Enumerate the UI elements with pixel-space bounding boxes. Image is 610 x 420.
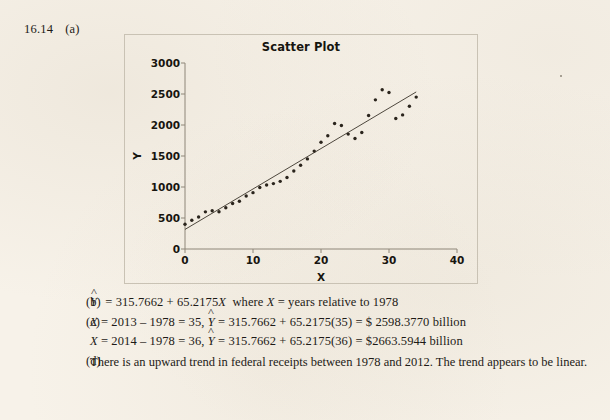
- data-point: [265, 183, 268, 186]
- part-c2-calc: = 2014 – 1978 = 36,: [101, 334, 205, 348]
- data-point: [292, 169, 295, 172]
- data-point: [367, 114, 370, 117]
- y-tick-label-1000: 1000: [151, 181, 180, 193]
- x-tick-label-40: 40: [450, 254, 465, 266]
- data-point: [340, 124, 343, 127]
- data-point: [306, 157, 309, 160]
- data-point: [211, 209, 214, 212]
- y-tick-label-2500: 2500: [151, 88, 180, 100]
- data-point: [204, 210, 207, 213]
- x-tick-label-30: 30: [382, 254, 397, 266]
- problem-heading: 16.14(a): [24, 22, 80, 37]
- plot-area: 050010001500200025003000 010203040 X Y: [185, 63, 457, 249]
- solution-part-b: (b) Y = 315.7662 + 65.2175X where X = ye…: [24, 296, 596, 309]
- data-point: [401, 113, 404, 116]
- problem-number: 16.14: [24, 22, 53, 36]
- y-tick-label-500: 500: [158, 212, 180, 224]
- data-point: [347, 132, 350, 135]
- x-axis-label: X: [185, 271, 457, 283]
- data-point: [217, 210, 220, 213]
- part-d-label: (d): [24, 355, 90, 368]
- part-c1-x: X: [90, 315, 98, 329]
- data-point: [374, 98, 377, 101]
- data-point: [190, 219, 193, 222]
- scatter-plot-chart: Scatter Plot 050010001500200025003000 01…: [124, 34, 478, 284]
- data-point: [231, 202, 234, 205]
- scan-speck: [560, 75, 562, 77]
- y-tick-label-1500: 1500: [151, 150, 180, 162]
- part-b-where-x: X: [267, 295, 275, 309]
- data-point: [360, 131, 363, 134]
- data-point: [313, 149, 316, 152]
- data-point: [381, 88, 384, 91]
- part-c-label: (c): [24, 316, 90, 329]
- plot-canvas: [185, 63, 457, 249]
- data-point: [319, 141, 322, 144]
- data-point: [258, 186, 261, 189]
- y-hat-symbol: Y: [90, 296, 97, 309]
- solution-part-c: (c) X = 2013 – 1978 = 35, Y = 315.7662 +…: [24, 316, 596, 329]
- part-b-variable-x: X: [218, 295, 226, 309]
- data-point: [197, 215, 200, 218]
- part-c2-x: X: [90, 334, 98, 348]
- part-d-text: There is an upward trend in federal rece…: [90, 355, 596, 371]
- part-c1-calc: = 2013 – 1978 = 35,: [101, 315, 205, 329]
- data-point: [387, 91, 390, 94]
- x-tick-label-0: 0: [181, 254, 188, 266]
- solution-body: (b) Y = 315.7662 + 65.2175X where X = ye…: [24, 296, 596, 377]
- part-c1-rhs: = 315.7662 + 65.2175(35) = $ 2598.3770 b…: [218, 315, 466, 329]
- part-c2-y-hat: Y: [208, 335, 215, 348]
- y-axis-label: Y: [131, 152, 143, 160]
- data-point: [326, 134, 329, 137]
- data-point: [272, 182, 275, 185]
- data-point: [245, 194, 248, 197]
- data-point: [299, 164, 302, 167]
- part-c-line-2: X = 2014 – 1978 = 36, Y = 315.7662 + 65.…: [90, 335, 596, 348]
- data-point: [183, 223, 186, 226]
- solution-part-c-cont: X = 2014 – 1978 = 36, Y = 315.7662 + 65.…: [24, 335, 596, 348]
- y-tick-label-3000: 3000: [151, 57, 180, 69]
- data-point: [394, 117, 397, 120]
- part-a-label: (a): [65, 22, 79, 36]
- data-point: [279, 180, 282, 183]
- x-tick-label-10: 10: [246, 254, 261, 266]
- part-c-line-1: X = 2013 – 1978 = 35, Y = 315.7662 + 65.…: [90, 316, 596, 329]
- solution-part-d: (d) There is an upward trend in federal …: [24, 355, 596, 371]
- data-point: [353, 137, 356, 140]
- data-point: [285, 176, 288, 179]
- part-b-coefficients: = 315.7662 + 65.2175: [105, 295, 218, 309]
- y-tick-label-2000: 2000: [151, 119, 180, 131]
- part-b-where: where: [232, 295, 263, 309]
- data-point: [408, 105, 411, 108]
- part-b-label: (b): [24, 296, 90, 309]
- y-tick-label-0: 0: [173, 243, 180, 255]
- data-point: [238, 200, 241, 203]
- solution-page: 16.14(a) Scatter Plot 050010001500200025…: [0, 0, 610, 420]
- data-point: [333, 122, 336, 125]
- part-c2-rhs: = 315.7662 + 65.2175(36) = $2663.5944 bi…: [218, 334, 463, 348]
- data-point: [251, 191, 254, 194]
- chart-title: Scatter Plot: [125, 40, 477, 54]
- data-point: [224, 206, 227, 209]
- part-b-equation: Y = 315.7662 + 65.2175X where X = years …: [90, 296, 596, 309]
- data-point: [415, 95, 418, 98]
- x-tick-label-20: 20: [314, 254, 329, 266]
- trend-line: [185, 92, 416, 229]
- part-b-note: = years relative to 1978: [278, 295, 399, 309]
